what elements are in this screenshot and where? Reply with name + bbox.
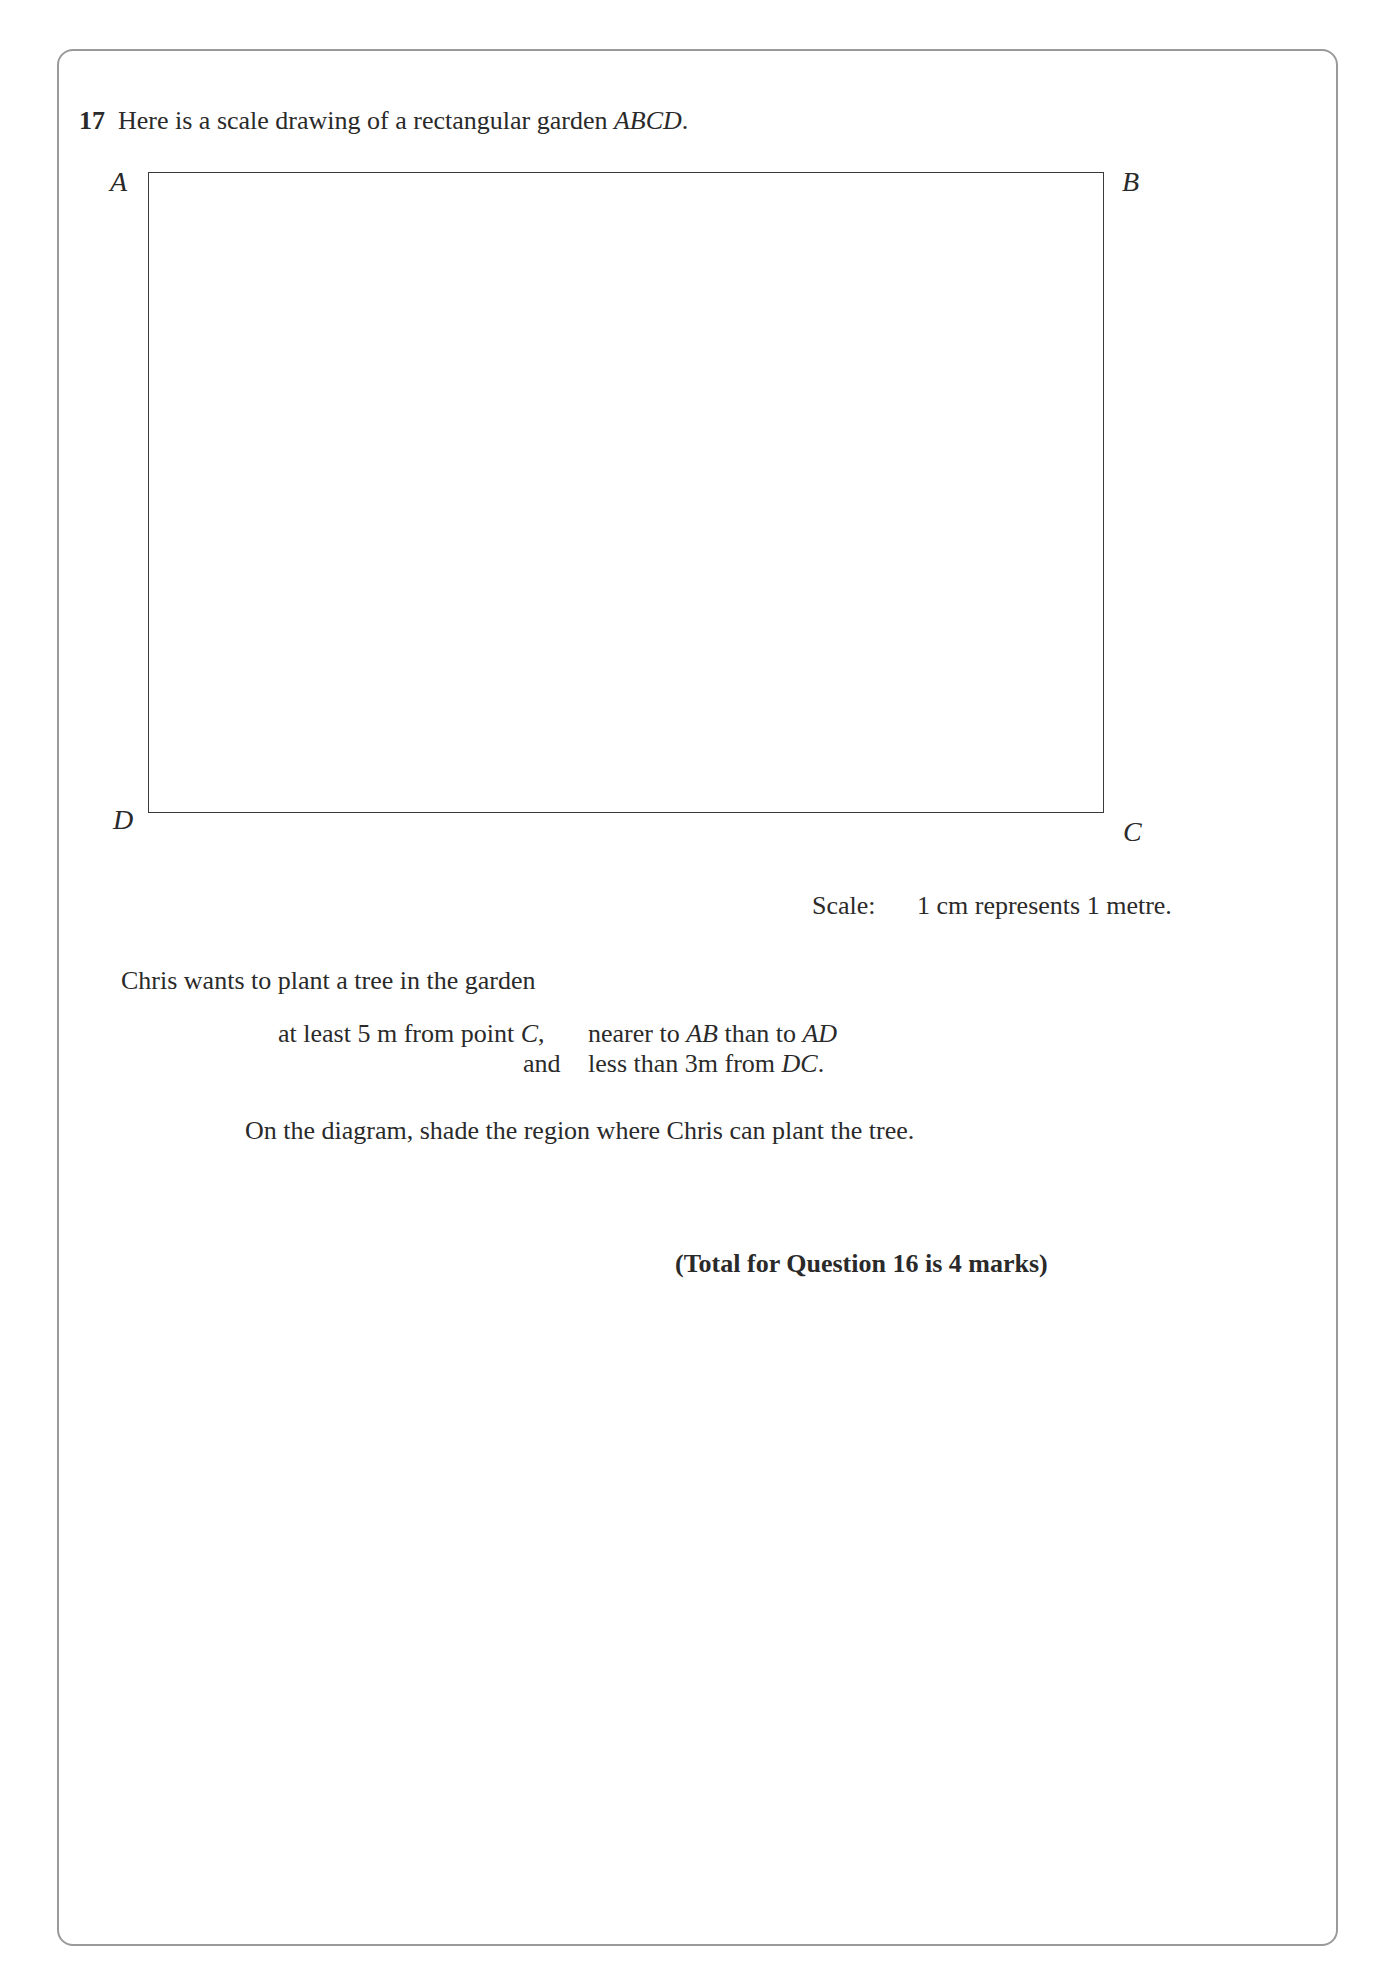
- question-title: 17 Here is a scale drawing of a rectangu…: [79, 108, 688, 134]
- total-marks: (Total for Question 16 is 4 marks): [675, 1251, 1048, 1277]
- question-shape-name: ABCD: [614, 106, 682, 135]
- condition-nearer-ab: nearer to AB than to AD: [588, 1021, 837, 1047]
- comma: ,: [538, 1019, 545, 1048]
- instruction-text: On the diagram, shade the region where C…: [245, 1118, 914, 1144]
- condition-text: nearer to: [588, 1019, 686, 1048]
- scale-value: 1 cm represents 1 metre.: [917, 893, 1172, 919]
- vertex-label-a: A: [110, 168, 127, 196]
- point-c-ref: C: [521, 1019, 538, 1048]
- conditions-lead: Chris wants to plant a tree in the garde…: [121, 968, 535, 994]
- vertex-label-b: B: [1122, 168, 1139, 196]
- line-ab-ref: AB: [686, 1019, 718, 1048]
- garden-rectangle-abcd[interactable]: [148, 172, 1104, 813]
- vertex-label-d: D: [113, 806, 133, 834]
- condition-text: at least 5 m from point: [278, 1019, 521, 1048]
- question-number: 17: [79, 106, 105, 135]
- question-intro-end: .: [682, 106, 689, 135]
- condition-distance-from-c: at least 5 m from point C,: [278, 1021, 544, 1047]
- period: .: [818, 1049, 825, 1078]
- question-intro: Here is a scale drawing of a rectangular…: [118, 106, 614, 135]
- line-ad-ref: AD: [802, 1019, 837, 1048]
- vertex-label-c: C: [1123, 818, 1142, 846]
- condition-text: than to: [718, 1019, 803, 1048]
- condition-distance-from-dc: less than 3m from DC.: [588, 1051, 824, 1077]
- line-dc-ref: DC: [782, 1049, 818, 1078]
- condition-and: and: [523, 1051, 561, 1077]
- scale-label: Scale:: [812, 893, 876, 919]
- condition-text: less than 3m from: [588, 1049, 782, 1078]
